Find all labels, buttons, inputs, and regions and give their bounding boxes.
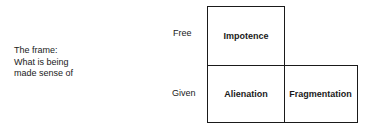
cell-alienation: Alienation [207,65,285,123]
frame-label-line-3: made sense of [14,68,73,80]
frame-label-line-2: What is being [14,57,73,69]
cell-impotence-label: Impotence [223,31,268,41]
row-label-free: Free [173,28,192,38]
cell-fragmentation: Fragmentation [284,65,358,123]
frame-label: The frame: What is being made sense of [14,45,73,80]
frame-label-line-1: The frame: [14,45,73,57]
cell-alienation-label: Alienation [224,89,268,99]
cell-impotence: Impotence [207,6,285,66]
cell-fragmentation-label: Fragmentation [289,89,352,99]
row-label-given: Given [172,88,196,98]
